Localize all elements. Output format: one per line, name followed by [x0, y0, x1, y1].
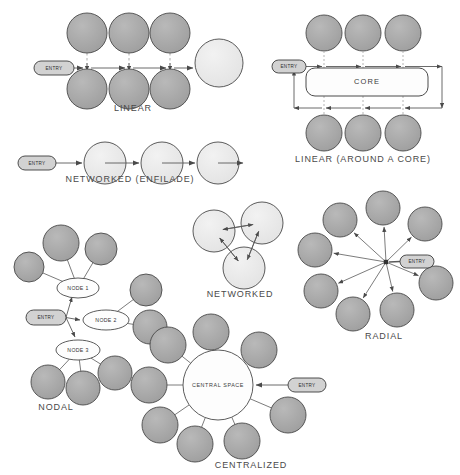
panel-networked: NETWORKED [193, 202, 283, 299]
space-node-circle [323, 203, 357, 237]
label-networked: NETWORKED [207, 289, 274, 299]
hub-label: NODE 2 [95, 317, 116, 323]
space-node-circle [419, 266, 453, 300]
space-node-circle [193, 210, 235, 252]
space-node-circle [193, 314, 229, 350]
space-node-circle [130, 274, 162, 306]
hub-label: NODE 3 [67, 347, 88, 353]
space-node-circle [345, 115, 381, 151]
nodal-hub-1[interactable]: NODE 1 [57, 278, 99, 298]
space-node-circle [223, 247, 265, 289]
entry-label: ENTRY [29, 161, 46, 166]
entry-to-node1-arrow [66, 297, 72, 318]
space-node-circle [43, 225, 79, 261]
space-node-circle [345, 15, 381, 51]
entry-label: ENTRY [281, 64, 298, 69]
space-node-circle [306, 15, 342, 51]
central-spoke [250, 399, 271, 408]
diagram-canvas: LINEARENTRYCORELINEAR (AROUND A CORE)ENT… [0, 0, 460, 475]
space-node-circle [150, 69, 190, 109]
typology-diagram-svg: LINEARENTRYCORELINEAR (AROUND A CORE)ENT… [0, 0, 460, 475]
space-node-circle [67, 69, 107, 109]
space-node-circle [241, 332, 277, 368]
central-spoke [182, 356, 191, 363]
panel-linear: LINEARENTRY [34, 13, 243, 113]
entry-to-center-link [389, 262, 400, 263]
space-node-circle [150, 327, 186, 363]
space-node-circle [66, 371, 100, 405]
nodal-hub-3[interactable]: NODE 3 [56, 340, 100, 360]
space-node-circle [304, 274, 338, 308]
hub-label: NODE 1 [67, 285, 88, 291]
space-node-circle [385, 115, 421, 151]
label-networked-enfilade: NETWORKED (ENFILADE) [65, 174, 194, 184]
nodal-hub-2[interactable]: NODE 2 [83, 310, 129, 330]
space-node-circle [408, 207, 442, 241]
space-node-circle [67, 13, 107, 53]
space-node-circle [306, 115, 342, 151]
panel-linear-core: CORELINEAR (AROUND A CORE)ENTRY [272, 15, 442, 164]
radial-spoke [386, 262, 393, 291]
space-node-circle [177, 426, 213, 462]
entry-to-node3-arrow [66, 318, 75, 338]
space-node-circle [109, 13, 149, 53]
entry-enfilade: ENTRY [18, 156, 56, 170]
core-label: CORE [354, 77, 380, 86]
label-radial: RADIAL [365, 331, 403, 341]
space-node-circle [366, 191, 400, 225]
space-node-circle [336, 297, 370, 331]
panel-radial: RADIALENTRY [298, 191, 453, 341]
label-linear-core: LINEAR (AROUND A CORE) [295, 154, 431, 164]
space-node-circle [85, 233, 117, 265]
entry-linear: ENTRY [34, 61, 74, 75]
label-linear: LINEAR [114, 103, 152, 113]
radial-center-point [384, 260, 388, 264]
panel-networked-enfilade: NETWORKED (ENFILADE)ENTRY [18, 142, 243, 184]
space-node-circle [241, 202, 283, 244]
entry-radial: ENTRY [400, 255, 434, 268]
entry-label: ENTRY [299, 383, 316, 388]
space-node-circle [385, 15, 421, 51]
central-space-label: CENTRAL SPACE [192, 382, 244, 388]
entry-label: ENTRY [409, 259, 426, 264]
space-node-circle [131, 367, 167, 403]
space-node-circle [150, 13, 190, 53]
label-nodal: NODAL [38, 402, 74, 412]
space-node-circle [142, 407, 178, 443]
generated-layers: LINEARENTRYCORELINEAR (AROUND A CORE)ENT… [14, 13, 453, 470]
central-spoke [202, 418, 206, 428]
entry-to-node2-arrow [66, 318, 80, 321]
central-spoke [232, 417, 235, 424]
entry-nodal: ENTRY [26, 310, 66, 325]
space-node-circle [31, 365, 65, 399]
space-node-circle [380, 293, 414, 327]
space-node-circle [98, 356, 132, 390]
entry-linear-core: ENTRY [272, 60, 306, 73]
central-spoke [175, 405, 189, 415]
entry-label: ENTRY [46, 66, 63, 71]
space-node-circle [224, 423, 260, 459]
space-node-circle [14, 252, 44, 282]
space-node-circle [298, 233, 332, 267]
entry-centralized: ENTRY [288, 378, 326, 392]
space-node-circle [195, 39, 243, 87]
radial-spoke [384, 227, 386, 262]
label-centralized: CENTRALIZED [215, 460, 287, 470]
panel-centralized: CENTRAL SPACECENTRALIZEDENTRY [131, 314, 326, 470]
entry-label: ENTRY [38, 315, 55, 320]
space-node-circle [270, 397, 306, 433]
